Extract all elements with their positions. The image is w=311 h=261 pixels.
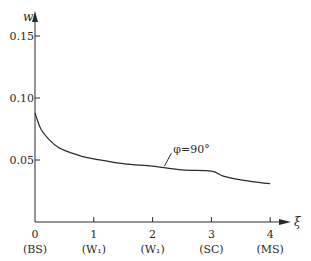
axes [32,11,291,225]
x-tick-sublabel: (SC) [199,243,224,256]
y-tick-label: 0.05 [10,154,35,167]
annotations: φ=90° [164,143,209,166]
x-tick-label: 0 [32,228,39,241]
series-annotation: φ=90° [173,143,209,156]
x-tick-sublabel: (W₁) [140,243,164,256]
y-axis-label: w [23,10,34,24]
x-tick-label: 1 [90,228,97,241]
x-tick-sublabel: (W₁) [82,243,106,256]
y-tick-label: 0.15 [10,30,35,43]
chart: 0.050.100.15 0(BS)1(W₁)2(W₁)3(SC)4(MS) w… [0,0,311,261]
x-tick-label: 2 [149,228,156,241]
y-tick-label: 0.10 [10,92,35,105]
x-axis-label: ξ [294,215,302,229]
x-axis-arrow-icon [279,219,291,225]
x-ticks: 0(BS)1(W₁)2(W₁)3(SC)4(MS) [23,217,284,256]
x-tick-label: 3 [208,228,215,241]
series-line [35,113,270,184]
x-tick-sublabel: (MS) [257,243,284,256]
x-tick-label: 4 [267,228,274,241]
x-tick-sublabel: (BS) [23,243,47,256]
annotation-leader [164,153,171,166]
